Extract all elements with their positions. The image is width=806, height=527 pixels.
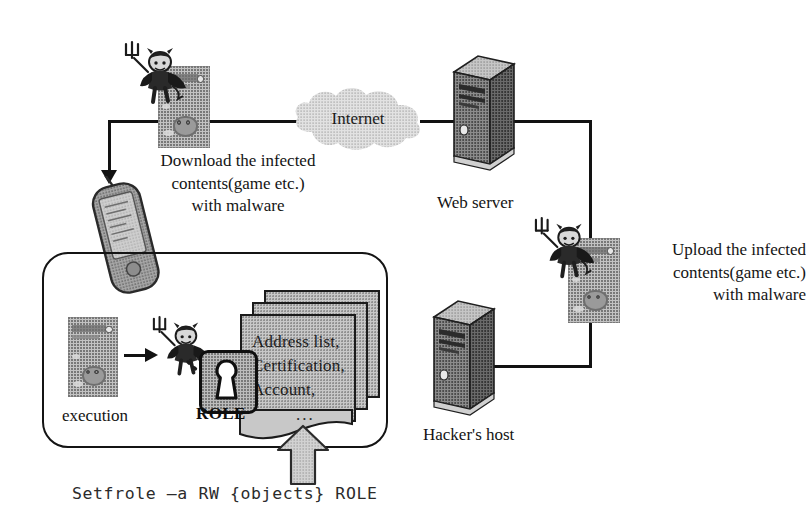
wire-download-vertical bbox=[108, 120, 111, 172]
hackers-host bbox=[424, 297, 500, 421]
content-character-eye bbox=[94, 370, 98, 374]
protected-objects-stack: Address list, Certification, Account, ..… bbox=[240, 290, 380, 435]
content-character bbox=[173, 116, 198, 137]
document-line-2: Certification, bbox=[252, 354, 348, 378]
web-server-label: Web server bbox=[437, 192, 514, 215]
wire-content-to-cloud bbox=[208, 120, 300, 123]
internet-label: Internet bbox=[288, 109, 428, 129]
wire-upload-horizontal-top bbox=[512, 120, 592, 123]
content-dot bbox=[197, 75, 205, 83]
upload-annotation: Upload the infected contents(game etc.) … bbox=[630, 239, 806, 307]
role-label: ROLE bbox=[196, 404, 246, 424]
upload-line-2: contents(game etc.) bbox=[630, 262, 806, 285]
content-blob bbox=[72, 354, 80, 359]
upload-line-3: with malware bbox=[630, 284, 806, 307]
devil-imp-icon bbox=[534, 214, 602, 288]
content-band bbox=[72, 325, 106, 332]
content-blob bbox=[573, 306, 583, 312]
content-character-eye bbox=[596, 295, 600, 299]
server-tower-icon bbox=[444, 52, 520, 176]
upward-block-arrow-icon bbox=[275, 424, 331, 486]
web-server bbox=[444, 52, 520, 176]
internet-cloud: Internet bbox=[288, 80, 428, 158]
document-ellipsis: ... bbox=[296, 405, 315, 425]
content-blob bbox=[163, 130, 173, 136]
hackers-host-label: Hacker's host bbox=[423, 424, 514, 447]
execution-label: execution bbox=[62, 405, 128, 428]
diagram-canvas: Internet bbox=[0, 0, 806, 527]
server-tower-icon bbox=[424, 297, 500, 421]
devil-imp-right bbox=[534, 214, 602, 288]
keyhole-lock-icon bbox=[202, 353, 251, 407]
download-line-1: Download the infected bbox=[130, 150, 346, 173]
wire-execution-to-imp bbox=[124, 354, 146, 357]
content-character-eye bbox=[186, 120, 190, 124]
content-character-eye bbox=[587, 295, 591, 299]
document-line-3: Account, bbox=[252, 378, 348, 402]
command-up-arrow bbox=[275, 424, 331, 486]
devil-imp-top bbox=[124, 38, 194, 114]
content-band-secondary bbox=[72, 335, 99, 339]
content-character-eye bbox=[177, 120, 181, 124]
content-dot bbox=[105, 326, 113, 334]
document-line-1: Address list, bbox=[252, 330, 348, 354]
command-text: Setfrole –a RW {objects} ROLE bbox=[72, 484, 377, 503]
content-character bbox=[583, 290, 608, 311]
content-dot bbox=[607, 247, 615, 255]
devil-imp-icon bbox=[124, 38, 194, 114]
document-contents: Address list, Certification, Account, bbox=[252, 330, 348, 402]
content-character bbox=[82, 366, 106, 386]
content-character-eye bbox=[86, 370, 90, 374]
content-blob bbox=[73, 381, 83, 387]
upload-line-1: Upload the infected bbox=[630, 239, 806, 262]
infected-content-inner bbox=[68, 317, 118, 397]
